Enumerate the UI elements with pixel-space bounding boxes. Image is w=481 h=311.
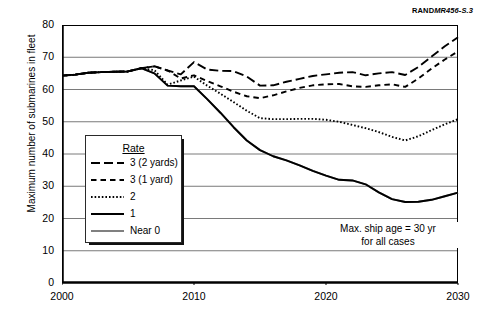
source-tag: RANDMR456-S.3 <box>412 6 473 15</box>
legend-title: Rate <box>86 142 181 154</box>
chart-note-line2: for all cases <box>318 235 458 248</box>
y-tick-label: 50 <box>26 115 54 127</box>
y-tick-label: 60 <box>26 83 54 95</box>
legend-item: 3 (1 yard) <box>86 171 181 188</box>
legend-item: Near 0 <box>86 222 181 239</box>
legend-item: 1 <box>86 205 181 222</box>
legend-label: 2 <box>130 191 136 202</box>
source-tag-bold: RAND <box>412 6 434 15</box>
legend-swatch <box>91 192 124 202</box>
series-line <box>62 68 458 140</box>
series-line <box>62 37 458 85</box>
x-tick-label: 2020 <box>301 290 351 302</box>
legend-swatch <box>91 209 124 219</box>
legend-swatch <box>91 226 124 236</box>
chart-note: Max. ship age = 30 yr for all cases <box>318 222 458 248</box>
source-tag-italic: MR456-S.3 <box>434 6 473 15</box>
chart-figure: RANDMR456-S.3 Maximum number of submarin… <box>0 0 481 311</box>
x-tick-label: 2030 <box>433 290 481 302</box>
series-line <box>62 51 458 98</box>
y-tick-label: 30 <box>26 179 54 191</box>
y-tick-label: 40 <box>26 147 54 159</box>
y-tick-label: 20 <box>26 212 54 224</box>
legend-label: 3 (2 yards) <box>130 157 178 168</box>
legend-item: 3 (2 yards) <box>86 154 181 171</box>
chart-note-line1: Max. ship age = 30 yr <box>318 222 458 235</box>
x-tick-label: 2000 <box>37 290 87 302</box>
y-tick-label: 80 <box>26 18 54 30</box>
chart-legend: Rate 3 (2 yards)3 (1 yard)21Near 0 <box>85 135 182 243</box>
legend-rows: 3 (2 yards)3 (1 yard)21Near 0 <box>86 154 181 239</box>
y-tick-label: 0 <box>26 276 54 288</box>
legend-label: 3 (1 yard) <box>130 174 173 185</box>
y-tick-label: 10 <box>26 244 54 256</box>
legend-label: 1 <box>130 208 136 219</box>
x-tick-label: 2010 <box>169 290 219 302</box>
y-tick-label: 70 <box>26 50 54 62</box>
legend-item: 2 <box>86 188 181 205</box>
legend-swatch <box>91 175 124 185</box>
legend-label: Near 0 <box>130 225 160 236</box>
legend-swatch <box>91 158 124 168</box>
